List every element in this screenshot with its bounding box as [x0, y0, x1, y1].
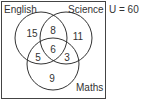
region-english-science: 8	[50, 25, 56, 36]
region-science-only: 11	[73, 31, 84, 42]
universe-label: U = 60	[109, 4, 139, 15]
region-maths-only: 9	[49, 73, 55, 84]
region-english-only: 15	[26, 28, 38, 39]
region-science-maths: 3	[64, 52, 70, 63]
maths-label: Maths	[76, 82, 103, 93]
english-circle	[15, 12, 67, 64]
region-english-maths: 5	[35, 52, 41, 63]
venn-diagram: English Science Maths U = 60 15 8 11 6 5…	[0, 0, 141, 104]
science-label: Science	[68, 4, 104, 15]
region-all-three: 6	[50, 44, 56, 55]
english-label: English	[4, 4, 37, 15]
